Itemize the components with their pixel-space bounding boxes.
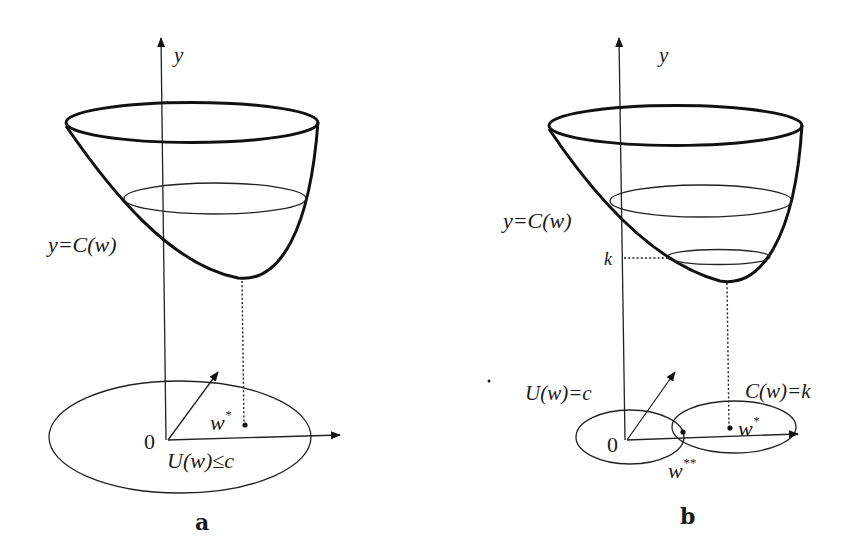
optimum-label-a: w* <box>210 407 232 435</box>
bowl-rim-a <box>66 103 318 143</box>
region-label-a: U(w)≤c <box>167 448 234 473</box>
panel-b: y y=C(w) k 0 w** w* <box>488 38 812 529</box>
origin-label-a: 0 <box>144 429 155 454</box>
level-ring-b <box>610 185 792 217</box>
bowl-profile-b <box>549 125 802 282</box>
level-ring-a <box>124 183 306 214</box>
level-ring-k <box>667 250 770 265</box>
panel-a: y y=C(w) 0 w* U(w)≤c a <box>46 38 340 535</box>
optimum-point-b <box>727 425 732 430</box>
projection-line-b <box>727 283 729 427</box>
panel-label-b: b <box>680 503 695 529</box>
figure-canvas: y y=C(w) 0 w* U(w)≤c a y <box>0 0 857 558</box>
origin-label-b: 0 <box>607 432 618 457</box>
level-set-label-b: C(w)=k <box>745 379 811 403</box>
surface-label-b: y=C(w) <box>501 208 572 233</box>
optimum-point-a <box>242 422 247 427</box>
projection-line-a <box>242 281 244 424</box>
optimum-label-b: w* <box>738 413 760 441</box>
y-axis-label-b: y <box>657 43 669 67</box>
panel-label-a: a <box>195 509 209 535</box>
tangent-point-label: w** <box>668 455 696 483</box>
level-set-ellipse-b <box>672 401 796 453</box>
depth-axis-b <box>627 372 675 440</box>
y-axis-label-a: y <box>172 43 184 67</box>
level-label-k: k <box>604 249 613 269</box>
constraint-label-b: U(w)=c <box>525 381 592 405</box>
x-axis-b <box>627 434 798 440</box>
x-axis-a <box>168 435 340 440</box>
surface-label-a: y=C(w) <box>46 232 117 257</box>
y-axis-b <box>619 38 625 440</box>
tangent-point-b <box>680 429 685 434</box>
stray-mark <box>488 380 491 383</box>
constraint-ellipse-b <box>576 410 684 464</box>
bowl-rim-b <box>549 106 802 146</box>
